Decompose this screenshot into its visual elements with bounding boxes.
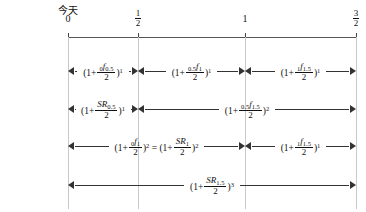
compounding-factor-label: (1+0.5f12)1 <box>172 58 212 86</box>
compounding-factor-label: (1+0f12)2 = (1+SR12)2 <box>115 133 199 161</box>
bracket-bar-right <box>217 71 238 72</box>
arrow-right-icon <box>350 181 356 189</box>
six-month-forward-factors: (1+0f0.52)1(1+0.5f12)1(1+1f1.52)1 <box>0 58 366 84</box>
bracket-segment: (1+1f1.52)1 <box>245 58 356 84</box>
arrow-left-icon <box>245 67 251 75</box>
tick-label-t32: 32 <box>344 10 366 29</box>
bracket-segment: (1+SR0.52)1 <box>68 96 138 122</box>
tick-label-t0: 0 <box>56 14 80 24</box>
tick-label-thalf: 12 <box>126 10 150 29</box>
arrow-right-icon <box>350 105 356 113</box>
one-year-equivalence: (1+0f12)2 = (1+SR12)2(1+1f1.52)1 <box>0 133 366 159</box>
bracket-bar-left <box>145 71 166 72</box>
bracket-bar-left <box>252 71 275 72</box>
bracket-segment: (1+0.5f12)1 <box>138 58 245 84</box>
bracket-segment: (1+0f12)2 = (1+SR12)2 <box>68 133 245 159</box>
bracket-segment: (1+SR1.52)3 <box>68 172 356 198</box>
arrow-left-icon <box>68 142 74 150</box>
bracket-segment: (1+1f1.52)1 <box>245 133 356 159</box>
compounding-factor-label: (1+1f1.52)1 <box>281 133 321 161</box>
bracket-bar-right <box>129 71 131 72</box>
compounding-factor-label: (1+0.5f1.52)2 <box>225 96 269 124</box>
bracket-bar-right <box>275 109 349 110</box>
arrow-left-icon <box>138 67 144 75</box>
bracket-bar-right <box>204 146 238 147</box>
compounding-factor-label: (1+SR0.52)1 <box>81 96 125 124</box>
bracket-bar-right <box>326 146 349 147</box>
compounding-factor-label: (1+0f0.52)1 <box>83 58 123 86</box>
bracket-segment: (1+0.5f1.52)2 <box>138 96 356 122</box>
bracket-bar-right <box>240 185 349 186</box>
bracket-bar-left <box>145 109 219 110</box>
diagram-canvas: 今天 012132 (1+0f0.52)1(1+0.5f12)1(1+1f1.5… <box>0 0 366 212</box>
bracket-bar-left <box>252 146 275 147</box>
arrow-right-icon <box>350 67 356 75</box>
timeline-axis <box>68 37 357 38</box>
arrow-left-icon <box>138 105 144 113</box>
bracket-bar-left <box>75 185 184 186</box>
compounding-factor-label: (1+1f1.52)1 <box>281 58 321 86</box>
arrow-left-icon <box>68 67 74 75</box>
arrow-right-icon <box>350 142 356 150</box>
arrow-left-icon <box>68 105 74 113</box>
bracket-bar-right <box>326 71 349 72</box>
bracket-segment: (1+0f0.52)1 <box>68 58 138 84</box>
arrow-left-icon <box>245 142 251 150</box>
tick-label-t1: 1 <box>233 14 257 24</box>
eighteen-month-spot-factor: (1+SR1.52)3 <box>0 172 366 198</box>
bracket-bar-left <box>75 146 109 147</box>
arrow-left-icon <box>68 181 74 189</box>
spot-and-forward-factors: (1+SR0.52)1(1+0.5f1.52)2 <box>0 96 366 122</box>
compounding-factor-label: (1+SR1.52)3 <box>190 172 234 200</box>
bracket-bar-left <box>75 71 77 72</box>
